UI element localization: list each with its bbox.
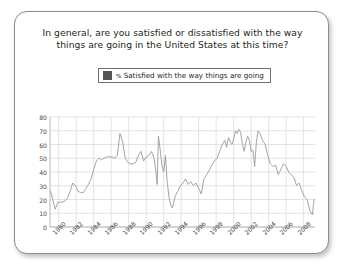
- y-axis-tick-label: 10: [34, 210, 47, 217]
- chart-card: In general, are you satisfied or dissati…: [14, 11, 329, 254]
- y-axis-tick-label: 30: [34, 182, 47, 189]
- y-axis-tick-label: 20: [34, 196, 47, 203]
- y-axis-tick-label: 70: [34, 127, 47, 134]
- y-axis-tick-label: 60: [34, 141, 47, 148]
- y-axis-tick-label: 80: [34, 114, 47, 121]
- screenshot-root: In general, are you satisfied or dissati…: [0, 0, 353, 273]
- y-axis-tick-label: 50: [34, 155, 47, 162]
- line-chart-svg: [15, 12, 330, 255]
- plot-area: 80706050403020100 1980198219841986198819…: [15, 12, 330, 255]
- y-axis-tick-label: 40: [34, 169, 47, 176]
- y-axis-tick-label: 0: [34, 224, 47, 231]
